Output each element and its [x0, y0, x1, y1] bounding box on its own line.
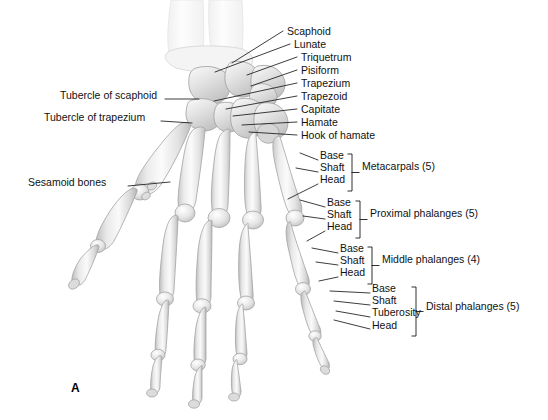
part-base: Base [327, 196, 352, 208]
leader-proximal-phalanges-5-shaft [303, 216, 325, 219]
proximal-phalanx-5 [286, 222, 309, 291]
label-tubercle-of-scaphoid: Tubercle of scaphoid [60, 90, 157, 101]
tuberosity-3 [188, 400, 199, 408]
group-label-proximal-phalanges-5: Proximal phalanges (5) [370, 208, 478, 219]
metacarpal-5 [273, 136, 302, 218]
label-hook-of-hamate: Hook of hamate [301, 130, 375, 141]
leader-distal-phalanges-5-tuberosity [336, 311, 370, 317]
part-head: Head [340, 266, 365, 278]
part-base: Base [320, 149, 345, 161]
leader-middle-phalanges-4-shaft [316, 262, 338, 265]
part-stack-middle-phalanges-4: BaseShaftHead [340, 242, 365, 279]
leader-distal-phalanges-5-base [330, 291, 370, 293]
middle-phalanx-5 [301, 291, 321, 338]
label-sesamoid-bones: Sesamoid bones [28, 177, 106, 188]
bracket-proximal-phalanges-5 [356, 201, 360, 238]
label-lunate: Lunate [294, 39, 326, 50]
part-head: Head [320, 173, 345, 185]
leader-distal-phalanges-5-shaft [334, 301, 370, 305]
label-trapezium: Trapezium [301, 78, 350, 89]
part-stack-proximal-phalanges-5: BaseShaftHead [327, 196, 352, 233]
middle-phalanges [151, 291, 321, 371]
label-capitate: Capitate [301, 104, 340, 115]
proximal-phalanx-4 [239, 223, 253, 306]
part-stack-distal-phalanges-5: BaseShaftTuberosityHead [372, 282, 421, 331]
metacarpal-4 [244, 132, 261, 220]
leader-metacarpals-5-shaft [296, 168, 318, 172]
leader-proximal-phalanges-5-head [307, 231, 325, 241]
part-base: Base [340, 242, 365, 254]
panel-label-a: A [71, 381, 80, 395]
proximal-phalanges [91, 188, 311, 313]
leader-proximal-phalanges-5-base [300, 200, 325, 207]
leader-middle-phalanges-4-base [312, 248, 338, 253]
part-shaft: Shaft [372, 294, 421, 306]
part-shaft: Shaft [340, 254, 365, 266]
part-head: Head [327, 220, 352, 232]
distal-phalanx-2 [151, 356, 162, 394]
metacarpal-3 [211, 129, 230, 219]
middle-phalanx-3 [194, 307, 206, 367]
part-tuberosity: Tuberosity [372, 306, 421, 318]
label-trapezoid: Trapezoid [301, 91, 347, 102]
metacarpal-bones [131, 122, 304, 229]
part-base: Base [372, 282, 421, 294]
part-shaft: Shaft [320, 161, 345, 173]
leader-metacarpals-5-base [300, 153, 318, 160]
part-stack-metacarpals-5: BaseShaftHead [320, 149, 345, 186]
distal-phalanx-3 [193, 366, 203, 405]
label-scaphoid: Scaphoid [287, 26, 331, 37]
tuberosity-2 [147, 389, 158, 397]
distal-phalanx-4 [231, 360, 241, 398]
middle-phalanx-2 [155, 300, 169, 357]
group-label-distal-phalanges-5: Distal phalanges (5) [426, 301, 519, 312]
label-hamate: Hamate [301, 117, 338, 128]
leader-distal-phalanges-5-head [334, 320, 370, 329]
figure-hand-skeleton: ScaphoidLunateTriquetrumPisiformTrapeziu… [0, 0, 548, 420]
bracket-middle-phalanges-4 [368, 247, 372, 284]
bracket-metacarpals-5 [348, 154, 352, 191]
proximal-phalanx-2 [160, 215, 179, 302]
label-pisiform: Pisiform [301, 65, 339, 76]
label-triquetrum: Triquetrum [301, 52, 351, 63]
middle-phalanx-4 [235, 304, 247, 361]
group-label-middle-phalanges-4: Middle phalanges (4) [382, 254, 480, 265]
part-shaft: Shaft [327, 208, 352, 220]
proximal-phalanx-3 [196, 220, 212, 309]
tuberosity-4 [229, 393, 240, 401]
leader-middle-phalanges-4-head [319, 277, 338, 281]
distal-phalanx-5 [313, 338, 330, 371]
label-tubercle-of-trapezium: Tubercle of trapezium [44, 112, 145, 123]
part-head: Head [372, 319, 421, 331]
group-label-metacarpals-5: Metacarpals (5) [362, 161, 435, 172]
